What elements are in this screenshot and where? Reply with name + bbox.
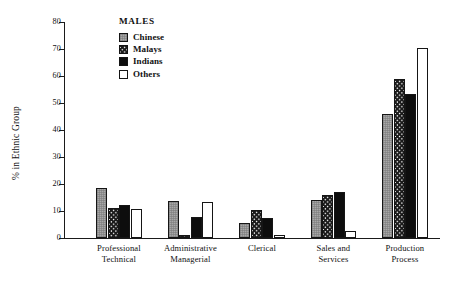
legend-item-malays: Malays [119, 44, 164, 55]
legend-item-label: Malays [133, 45, 162, 54]
bar-indians [405, 94, 416, 238]
bar-malays [179, 235, 190, 238]
y-tick-label: 80 [52, 18, 61, 26]
bar-group [239, 22, 285, 238]
y-tick-label: 10 [52, 207, 61, 215]
bar-chinese [382, 114, 393, 238]
y-tick-label: 40 [52, 126, 61, 134]
y-tick-label: 70 [52, 45, 61, 53]
legend-swatch-icon [119, 57, 128, 66]
y-tick-label: 60 [52, 72, 61, 80]
bar-indians [191, 217, 202, 238]
legend-swatch-icon [119, 70, 128, 79]
bar-malays [322, 195, 333, 238]
bar-chinese [96, 188, 107, 238]
legend-title: MALES [119, 16, 164, 26]
y-tick-label: 0 [57, 234, 61, 242]
bar-chinese [311, 200, 322, 238]
bar-others [417, 48, 428, 238]
legend: MALES ChineseMalaysIndiansOthers [119, 16, 164, 81]
bar-group [382, 22, 428, 238]
y-axis-title: % in Ethnic Group [11, 106, 21, 180]
legend-item-others: Others [119, 69, 164, 80]
bar-chinese [168, 201, 179, 238]
y-tick-label: 20 [52, 180, 61, 188]
bar-malays [394, 79, 405, 238]
bar-malays [251, 210, 262, 238]
legend-swatch-icon [119, 33, 128, 42]
bar-indians [119, 205, 130, 238]
bar-others [131, 209, 142, 238]
bar-others [274, 235, 285, 238]
bar-indians [334, 192, 345, 238]
y-tick-label: 50 [52, 99, 61, 107]
legend-item-indians: Indians [119, 56, 164, 67]
legend-item-label: Chinese [133, 33, 164, 42]
bar-group [311, 22, 357, 238]
legend-item-label: Others [133, 70, 160, 79]
legend-item-label: Indians [133, 57, 163, 66]
bar-malays [108, 208, 119, 238]
x-axis-group-label: ProductionProcess [355, 243, 452, 264]
legend-swatch-icon [119, 45, 128, 54]
bar-others [345, 231, 356, 238]
legend-item-chinese: Chinese [119, 32, 164, 43]
bar-chart: % in Ethnic Group 01020304050607080 Prof… [0, 0, 452, 286]
y-tick-label: 30 [52, 153, 61, 161]
bar-chinese [239, 223, 250, 238]
x-axis-line [64, 238, 440, 239]
bar-others [202, 202, 213, 238]
bar-indians [262, 218, 273, 238]
bar-group [168, 22, 214, 238]
